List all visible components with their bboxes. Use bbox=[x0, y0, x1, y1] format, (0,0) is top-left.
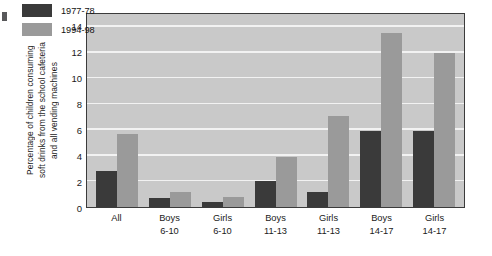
bar-group bbox=[355, 14, 408, 207]
y-axis-tick-label: 10 bbox=[62, 73, 82, 84]
legend-label: 1994-98 bbox=[61, 25, 95, 35]
x-axis-tick-label: Girls6-10 bbox=[196, 212, 249, 237]
bar-group bbox=[249, 14, 302, 207]
x-axis-tick-label: All bbox=[90, 212, 143, 237]
bar bbox=[360, 131, 381, 207]
bar bbox=[202, 202, 223, 207]
y-axis-tick-label: 0 bbox=[62, 203, 82, 214]
corner-marker bbox=[2, 12, 7, 21]
x-axis-tick-label: Girls14-17 bbox=[408, 212, 461, 237]
y-axis-title-line-1: Percentage of children consuming bbox=[24, 18, 36, 203]
plot-area bbox=[86, 13, 465, 208]
legend: 1977-78 1994-98 bbox=[22, 4, 95, 42]
bar-group bbox=[91, 14, 144, 207]
y-axis-title-line-3: and all vending machines bbox=[48, 18, 60, 203]
bar bbox=[117, 134, 138, 207]
bar bbox=[381, 33, 402, 207]
bar bbox=[276, 157, 297, 207]
bar bbox=[149, 198, 170, 207]
bar bbox=[255, 181, 276, 207]
legend-label: 1977-78 bbox=[61, 6, 95, 16]
bar bbox=[307, 192, 328, 207]
bar bbox=[328, 116, 349, 207]
y-axis-title-line-2: soft drinks from the school cafeteria bbox=[36, 18, 48, 203]
x-axis-tick-label: Boys14-17 bbox=[355, 212, 408, 237]
legend-item: 1994-98 bbox=[22, 23, 95, 36]
bar bbox=[96, 171, 117, 207]
x-axis-tick-label: Girls11-13 bbox=[302, 212, 355, 237]
bar-groups bbox=[87, 14, 464, 207]
bar-group bbox=[144, 14, 197, 207]
y-axis-tick-label: 12 bbox=[62, 47, 82, 58]
bar bbox=[223, 197, 244, 207]
bar-group bbox=[407, 14, 460, 207]
bar bbox=[434, 53, 455, 207]
y-axis-title: Percentage of children consuming soft dr… bbox=[22, 18, 62, 203]
y-axis-tick-label: 4 bbox=[62, 151, 82, 162]
y-axis-tick-label: 2 bbox=[62, 177, 82, 188]
y-axis-tick-label: 6 bbox=[62, 125, 82, 136]
legend-swatch-icon bbox=[22, 4, 52, 17]
bar bbox=[170, 192, 191, 207]
legend-swatch-icon bbox=[22, 23, 52, 36]
x-axis-tick-labels: AllBoys6-10Girls6-10Boys11-13Girls11-13B… bbox=[86, 212, 465, 237]
x-axis-tick-label: Boys11-13 bbox=[249, 212, 302, 237]
x-axis-tick-label: Boys6-10 bbox=[143, 212, 196, 237]
bar-group bbox=[302, 14, 355, 207]
chart-figure: Percentage of children consuming soft dr… bbox=[0, 0, 492, 256]
bar bbox=[413, 131, 434, 207]
bar-group bbox=[196, 14, 249, 207]
y-axis-tick-label: 8 bbox=[62, 99, 82, 110]
legend-item: 1977-78 bbox=[22, 4, 95, 17]
